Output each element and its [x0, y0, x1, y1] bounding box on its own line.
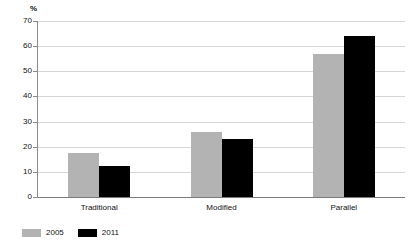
bar [344, 36, 375, 197]
bar [313, 54, 344, 197]
legend-label: 2005 [46, 229, 64, 237]
y-axis-tick-mark [33, 21, 38, 22]
legend-label: 2011 [102, 229, 119, 237]
legend-item[interactable]: 2011 [78, 229, 119, 237]
plot-area [38, 21, 405, 197]
legend-item[interactable]: 2005 [22, 229, 64, 237]
legend-swatch-icon [78, 229, 97, 237]
x-axis-category-label: Modified [160, 203, 282, 212]
bar-group [191, 21, 253, 197]
bar-group [68, 21, 130, 197]
legend-swatch-icon [22, 229, 41, 237]
y-axis-tick-mark [33, 46, 38, 47]
y-axis-tick-label: 20 [4, 143, 32, 151]
bar [99, 166, 130, 197]
y-axis-tick-mark [33, 172, 38, 173]
y-axis-tick-mark [33, 96, 38, 97]
bar-group [313, 21, 375, 197]
bar [222, 139, 253, 197]
axis-baseline [38, 197, 405, 198]
y-axis-tick-mark [33, 71, 38, 72]
y-axis-tick-mark [33, 122, 38, 123]
y-axis-tick-label: 30 [4, 118, 32, 126]
y-axis-tick-label: 0 [4, 193, 32, 201]
y-axis-tick-label: 10 [4, 168, 32, 176]
bar [68, 153, 99, 197]
y-axis-tick-label: 60 [4, 42, 32, 50]
y-axis-tick-label: 50 [4, 67, 32, 75]
bar [191, 132, 222, 197]
y-axis-tick-label: 70 [4, 17, 32, 25]
bar-chart: % 010203040506070 TraditionalModifiedPar… [0, 0, 411, 252]
y-axis-tick-mark [33, 147, 38, 148]
chart-legend: 20052011 [22, 229, 119, 237]
y-axis-tick-mark [33, 197, 38, 198]
x-axis-category-label: Traditional [38, 203, 160, 212]
y-axis-tick-label: 40 [4, 92, 32, 100]
y-axis-tick-labels: 010203040506070 [0, 0, 32, 252]
x-axis-category-label: Parallel [283, 203, 405, 212]
